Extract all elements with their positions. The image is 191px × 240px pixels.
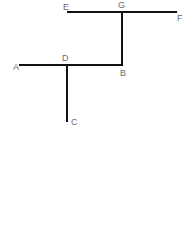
diagram-canvas: E G F A D B C xyxy=(0,0,191,240)
point-label-b: B xyxy=(120,68,126,78)
geometry-figure: E G F A D B C xyxy=(0,0,191,240)
point-label-d: D xyxy=(62,53,69,63)
point-label-e: E xyxy=(63,2,69,12)
point-label-f: F xyxy=(177,13,183,23)
point-label-g: G xyxy=(118,0,125,10)
point-label-c: C xyxy=(71,117,78,127)
point-label-a: A xyxy=(13,62,19,72)
